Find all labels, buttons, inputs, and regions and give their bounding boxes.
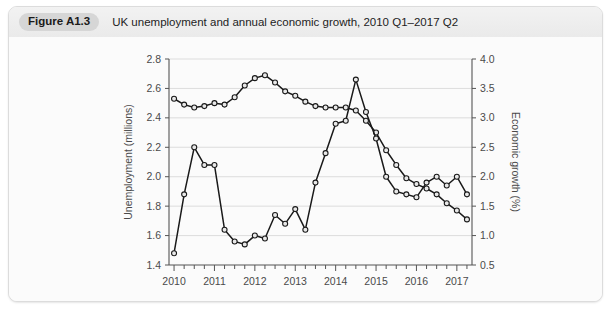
series-point xyxy=(172,96,177,101)
chart-plot-area: 1.41.61.82.02.22.42.62.8 0.51.01.52.02.5… xyxy=(9,37,602,302)
left-tick-label: 1.4 xyxy=(146,259,161,271)
series-point xyxy=(384,148,389,153)
series-point xyxy=(303,99,308,104)
y2-axis-title: Economic growth (%) xyxy=(510,112,522,212)
series-point xyxy=(414,195,419,200)
series-point xyxy=(283,221,288,226)
right-tick-label: 3.5 xyxy=(480,82,495,94)
series-point xyxy=(202,104,207,109)
series-point xyxy=(313,180,318,185)
x-tick-label: 2015 xyxy=(364,275,388,287)
x-axis-ticks: 20102011201220132014201520162017 xyxy=(162,265,468,287)
series-point xyxy=(232,239,237,244)
series-point xyxy=(222,227,227,232)
series-point xyxy=(353,108,358,113)
series-point xyxy=(464,192,469,197)
grid-lines xyxy=(169,59,472,236)
series-point xyxy=(404,192,409,197)
left-tick-label: 2.4 xyxy=(146,111,161,123)
series-point xyxy=(394,162,399,167)
right-tick-label: 1.5 xyxy=(480,200,495,212)
left-tick-label: 1.8 xyxy=(146,200,161,212)
series-point xyxy=(454,208,459,213)
series-point xyxy=(454,174,459,179)
figure-caption-bar: Figure A1.3 UK unemployment and annual e… xyxy=(9,7,602,38)
series-point xyxy=(172,251,177,256)
x-tick-label: 2012 xyxy=(243,275,267,287)
series-point xyxy=(444,201,449,206)
figure-caption-title: UK unemployment and annual economic grow… xyxy=(112,16,458,28)
right-tick-label: 2.5 xyxy=(480,141,495,153)
right-tick-label: 1.0 xyxy=(480,229,495,241)
series-point xyxy=(303,227,308,232)
figure-number-badge: Figure A1.3 xyxy=(19,13,99,32)
series-point xyxy=(333,105,338,110)
series-point xyxy=(374,136,379,141)
series-point xyxy=(273,80,278,85)
series-line-1 xyxy=(174,80,467,254)
series-point xyxy=(182,192,187,197)
series-point xyxy=(434,192,439,197)
left-tick-label: 2.2 xyxy=(146,141,161,153)
series-point xyxy=(343,118,348,123)
right-tick-label: 4.0 xyxy=(480,53,495,65)
figure-card: Figure A1.3 UK unemployment and annual e… xyxy=(8,6,603,302)
series-point xyxy=(434,174,439,179)
series-point xyxy=(464,217,469,222)
series-layer xyxy=(172,73,470,256)
series-point xyxy=(262,73,267,78)
series-point xyxy=(424,186,429,191)
x-tick-label: 2011 xyxy=(203,275,226,287)
left-tick-label: 2.6 xyxy=(146,82,161,94)
series-point xyxy=(273,212,278,217)
series-point xyxy=(192,105,197,110)
series-point xyxy=(192,145,197,150)
series-point xyxy=(424,180,429,185)
left-tick-label: 2.8 xyxy=(146,53,161,65)
series-point xyxy=(232,95,237,100)
x-tick-label: 2013 xyxy=(284,275,308,287)
series-point xyxy=(384,174,389,179)
right-axis-ticks: 0.51.01.52.02.53.03.54.0 xyxy=(472,53,495,271)
series-point xyxy=(363,118,368,123)
series-point xyxy=(252,76,257,81)
series-point xyxy=(293,93,298,98)
left-axis-ticks: 1.41.61.82.02.22.42.62.8 xyxy=(146,53,169,271)
series-point xyxy=(262,236,267,241)
series-point xyxy=(444,183,449,188)
series-point xyxy=(212,101,217,106)
series-point xyxy=(333,121,338,126)
right-tick-label: 3.0 xyxy=(480,111,495,123)
y-axis-title: Unemployment (millions) xyxy=(122,104,134,220)
series-point xyxy=(353,77,358,82)
series-point xyxy=(394,189,399,194)
series-point xyxy=(202,162,207,167)
series-point xyxy=(363,109,368,114)
right-tick-label: 2.0 xyxy=(480,170,495,182)
series-point xyxy=(343,105,348,110)
series-point xyxy=(404,176,409,181)
series-point xyxy=(313,104,318,109)
series-point xyxy=(323,105,328,110)
line-chart: 1.41.61.82.02.22.42.62.8 0.51.01.52.02.5… xyxy=(9,37,603,302)
series-point xyxy=(182,102,187,107)
series-point xyxy=(414,182,419,187)
series-point xyxy=(242,83,247,88)
x-tick-label: 2016 xyxy=(405,275,429,287)
series-point xyxy=(323,151,328,156)
series-point xyxy=(293,207,298,212)
series-point xyxy=(212,162,217,167)
series-point xyxy=(283,89,288,94)
x-tick-label: 2010 xyxy=(162,275,186,287)
series-point xyxy=(222,102,227,107)
right-tick-label: 0.5 xyxy=(480,259,495,271)
series-point xyxy=(252,233,257,238)
x-tick-label: 2014 xyxy=(324,275,348,287)
left-tick-label: 1.6 xyxy=(146,229,161,241)
left-tick-label: 2.0 xyxy=(146,170,161,182)
x-tick-label: 2017 xyxy=(445,275,469,287)
series-point xyxy=(242,242,247,247)
